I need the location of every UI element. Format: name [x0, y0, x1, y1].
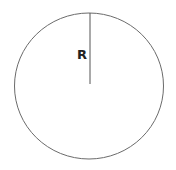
circle-diagram: R: [0, 0, 176, 170]
radius-label: R: [77, 47, 87, 62]
circle-outline: [15, 13, 164, 159]
